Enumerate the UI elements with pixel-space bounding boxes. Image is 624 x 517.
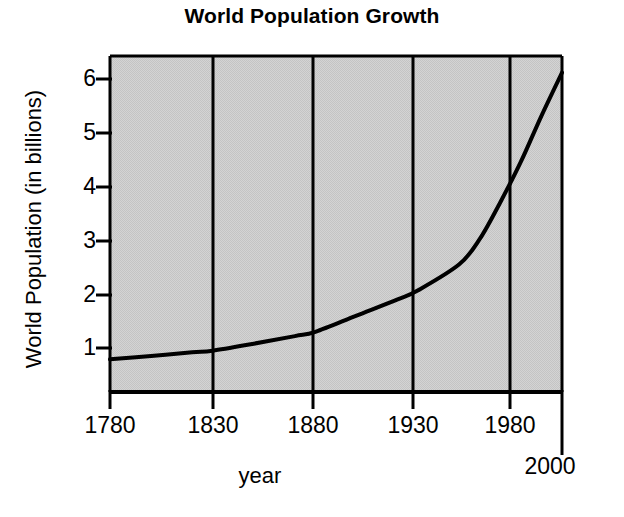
- y-tick-label-5: 5: [56, 121, 96, 144]
- population-growth-chart: World Population Growth World Population…: [0, 0, 624, 517]
- y-tick-label-1: 1: [56, 336, 96, 359]
- x-tick-label-2000: 2000: [495, 455, 605, 478]
- x-tick-label-1830: 1830: [158, 414, 268, 437]
- y-tick-label-3: 3: [56, 229, 96, 252]
- x-tick-label-1880: 1880: [258, 414, 368, 437]
- x-tick-label-1780: 1780: [55, 414, 165, 437]
- y-tick-label-2: 2: [56, 283, 96, 306]
- x-tick-label-1980: 1980: [455, 414, 565, 437]
- plot-background: [110, 56, 562, 392]
- y-tick-label-4: 4: [56, 175, 96, 198]
- x-tick-label-1930: 1930: [358, 414, 468, 437]
- y-tick-label-6: 6: [56, 67, 96, 90]
